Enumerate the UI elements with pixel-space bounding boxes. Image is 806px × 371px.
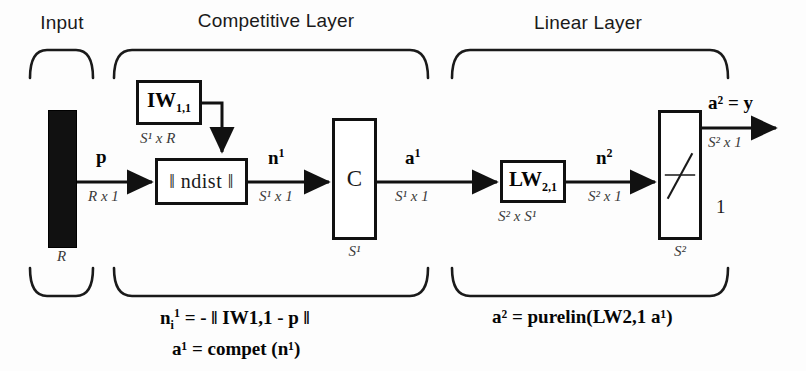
equation-competitive-net-input: ni1 = - ‖ IW1,1 - p ‖ [160,306,310,333]
equation-compet-output: a¹ = compet (n¹) [172,338,300,360]
input-vector-bar [48,110,77,248]
signal-label-p: p [96,146,107,168]
purelin-icon [661,112,699,238]
layer-weight-label: LW2,1 [509,167,557,195]
input-weight-label: IW1,1 [147,88,191,116]
bias-marker-label: 1 [716,196,726,218]
layer-output-label-a1: a1 [405,146,421,169]
compet-transfer-box[interactable]: C [332,118,377,240]
ndist-box[interactable]: ‖ ndist ‖ [155,158,248,205]
net-input-label-n2: n2 [596,146,613,169]
purelin-transfer-box[interactable] [658,110,702,240]
layer-weight-dim: S² x S¹ [498,208,536,225]
equation-linear-output: a² = purelin(LW2,1 a¹) [492,306,673,328]
input-size-label: R [48,248,75,265]
compet-label: C [347,166,362,192]
network-output-dim: S² x 1 [708,134,742,151]
layer-weight-box[interactable]: LW2,1 [500,160,566,203]
compet-size-label: S¹ [332,243,377,260]
layer-output-dim-a1: S¹ x 1 [395,188,429,205]
signal-dim-p: R x 1 [88,188,119,205]
input-weight-box[interactable]: IW1,1 [136,80,202,125]
net-input-label-n1: n1 [268,146,285,169]
net-input-dim-n2: S² x 1 [588,188,622,205]
lvq-network-diagram: Input Competitive Layer Linear Layer [0,0,806,371]
ndist-label: ‖ ndist ‖ [169,170,234,193]
net-input-dim-n1: S¹ x 1 [259,188,293,205]
network-output-label: a² = y [708,92,753,114]
purelin-size-label: S² [658,243,702,260]
input-weight-dim: S¹ x R [140,130,175,147]
